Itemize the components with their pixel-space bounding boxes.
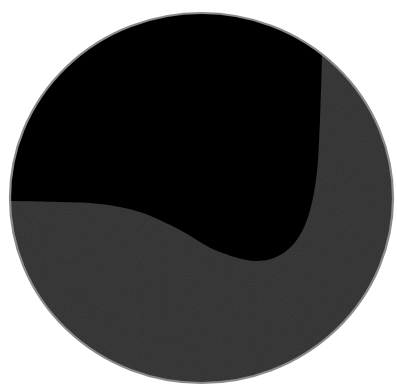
lens-disc-illustration bbox=[0, 0, 397, 391]
image-canvas bbox=[0, 0, 397, 391]
